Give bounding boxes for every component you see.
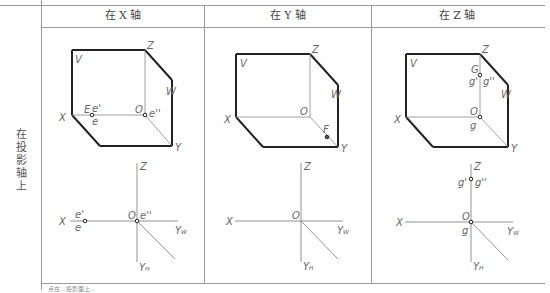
label-point-g-double-prime: g'' xyxy=(483,76,495,87)
proj-label-x: X xyxy=(225,216,234,227)
label-point-e-double-prime: e'' xyxy=(149,108,161,119)
proj-label-yh: YH xyxy=(473,261,484,272)
label-y: Y xyxy=(175,142,182,153)
proj-label-e-double-prime: e'' xyxy=(140,210,152,221)
label-x: X xyxy=(223,114,232,125)
projection-y-axis: X Z O YW YH xyxy=(225,161,350,272)
label-w-plane: W xyxy=(501,89,512,100)
cube-z-axis: V Z W X Y O G g' g'' g xyxy=(393,44,518,154)
proj-label-yw: YW xyxy=(175,225,188,236)
label-w-plane: W xyxy=(331,89,342,100)
label-o: O xyxy=(135,104,143,115)
proj-label-yh: YH xyxy=(303,261,314,272)
label-point-e-prime: e' xyxy=(92,103,101,114)
proj-label-z: Z xyxy=(303,161,312,172)
proj-label-yw: YW xyxy=(337,225,350,236)
label-x: X xyxy=(58,112,67,123)
label-y: Y xyxy=(511,143,518,154)
label-point-E: E xyxy=(84,104,91,115)
proj-label-e: e xyxy=(75,222,81,233)
label-z: Z xyxy=(481,44,490,55)
proj-label-yw: YW xyxy=(507,226,520,237)
label-o: O xyxy=(300,106,308,117)
label-z: Z xyxy=(311,44,320,55)
proj-label-o: O xyxy=(292,210,300,221)
proj-label-z: Z xyxy=(473,161,482,172)
proj-label-x: X xyxy=(58,216,67,227)
projection-x-axis: X Z O e' e e'' YW YH xyxy=(58,161,188,273)
label-v-plane: V xyxy=(410,58,418,69)
cube-x-axis: V Z W X Y O E e' e e'' xyxy=(58,40,182,153)
label-w-plane: W xyxy=(166,86,177,97)
footer-partial-text: 点在...投影面上... xyxy=(48,284,95,293)
projection-z-axis: X Z O g' g'' g YW YH xyxy=(395,161,520,272)
label-o: O xyxy=(470,106,478,117)
proj-label-x: X xyxy=(395,217,404,228)
label-point-G: G xyxy=(471,64,479,75)
cube-y-axis: V Z W X Y O F xyxy=(223,44,348,154)
proj-label-yh: YH xyxy=(139,262,150,273)
label-point-g: g xyxy=(470,120,476,131)
proj-label-g-prime: g' xyxy=(458,177,467,188)
label-y: Y xyxy=(341,143,348,154)
proj-label-g: g xyxy=(462,225,468,236)
label-v-plane: V xyxy=(75,54,83,65)
proj-label-g-double-prime: g'' xyxy=(475,177,487,188)
proj-label-e-prime: e' xyxy=(75,209,84,220)
proj-label-o: O xyxy=(128,210,136,221)
proj-label-z: Z xyxy=(139,161,148,172)
proj-label-o: O xyxy=(462,211,470,222)
label-v-plane: V xyxy=(240,58,248,69)
label-z: Z xyxy=(146,40,155,51)
label-x: X xyxy=(393,114,402,125)
label-point-g-prime: g' xyxy=(469,76,478,87)
label-point-F: F xyxy=(323,124,329,135)
label-point-e: e xyxy=(92,116,98,127)
